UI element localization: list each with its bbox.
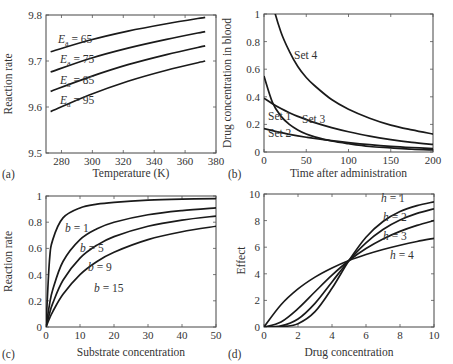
chart-panel-b: 05010015020000.20.40.60.81Time after adm… — [221, 0, 442, 181]
x-tick-label: 50 — [211, 329, 223, 341]
x-tick-label: 0 — [43, 329, 49, 341]
panel-letter: (c) — [2, 348, 15, 361]
series-label: b = 9 — [88, 261, 112, 273]
y-tick-label: 0.4 — [28, 269, 42, 281]
y-tick-label: 9.8 — [28, 9, 42, 21]
panel-letter: (a) — [2, 168, 15, 181]
x-tick-label: 320 — [115, 155, 132, 167]
y-tick-label: 0 — [255, 321, 261, 333]
y-tick-label: 0.6 — [28, 242, 42, 254]
series-label: Set 3 — [302, 113, 326, 125]
y-tick-label: 6 — [255, 241, 261, 253]
x-tick-label: 4 — [329, 329, 335, 341]
chart-panel-c: 0102030405000.20.40.60.81Substrate conce… — [2, 190, 222, 361]
y-axis-label: Reaction rate — [2, 54, 14, 115]
series-label: Set 4 — [294, 49, 318, 61]
y-tick-label: 0.2 — [28, 295, 42, 307]
x-tick-label: 340 — [146, 155, 163, 167]
y-tick-label: 0.8 — [28, 216, 42, 228]
x-tick-label: 0 — [261, 154, 267, 166]
y-tick-label: 2 — [255, 294, 261, 306]
x-tick-label: 10 — [75, 329, 87, 341]
y-tick-label: 1 — [255, 8, 261, 20]
y-axis-label: Reaction rate — [2, 231, 14, 292]
x-tick-label: 10 — [429, 329, 441, 341]
y-tick-label: 4 — [255, 268, 261, 280]
x-tick-label: 0 — [261, 329, 267, 341]
series-line — [264, 202, 434, 327]
panel-letter: (b) — [228, 168, 242, 181]
series-label: h = 1 — [381, 192, 405, 204]
x-tick-label: 30 — [143, 329, 155, 341]
series-label: Set 2 — [268, 127, 292, 139]
y-tick-label: 0 — [37, 321, 43, 333]
y-tick-label: 9.7 — [28, 55, 42, 67]
y-tick-label: 9.6 — [28, 101, 42, 113]
x-axis-label: Substrate concentration — [77, 346, 186, 358]
x-tick-label: 2 — [295, 329, 301, 341]
y-axis-label: Effect — [235, 246, 247, 275]
y-tick-label: 0.4 — [246, 91, 260, 103]
series-line — [264, 209, 434, 327]
x-tick-label: 6 — [363, 329, 369, 341]
y-axis-label: Drug concentration in blood — [221, 18, 234, 148]
series-label: h = 3 — [383, 230, 407, 242]
chart-panel-a: 2803003203403603809.59.69.79.8Temperatur… — [2, 9, 225, 181]
y-tick-label: 10 — [249, 188, 261, 200]
y-tick-label: 0 — [255, 146, 261, 158]
x-tick-label: 20 — [109, 329, 121, 341]
x-axis-label: Time after administration — [290, 167, 407, 179]
y-tick-label: 0.8 — [246, 36, 260, 48]
y-tick-label: 1 — [37, 190, 43, 202]
x-axis-label: Temperature (K) — [93, 167, 170, 180]
x-tick-label: 100 — [340, 154, 357, 166]
series-label: Ea = 95 — [59, 94, 95, 109]
series-label: h = 2 — [383, 211, 407, 223]
series-label: b = 1 — [65, 222, 89, 234]
series-label: Set 1 — [268, 110, 292, 122]
x-axis-label: Drug concentration — [304, 346, 393, 359]
axes-box — [46, 196, 216, 327]
y-tick-label: 9.5 — [28, 147, 42, 159]
y-tick-label: 8 — [255, 215, 261, 227]
y-tick-label: 0.6 — [246, 63, 260, 75]
series-label: h = 4 — [390, 249, 414, 261]
x-tick-label: 150 — [383, 154, 400, 166]
figure: 2803003203403603809.59.69.79.8Temperatur… — [0, 0, 453, 364]
series-line — [264, 221, 434, 327]
x-tick-label: 300 — [84, 155, 101, 167]
series-line — [46, 226, 216, 327]
series-label: b = 15 — [94, 282, 124, 294]
series-label: Ea = 65 — [57, 33, 93, 48]
panel-letter: (d) — [228, 348, 242, 361]
series-label: b = 5 — [80, 242, 104, 254]
x-tick-label: 380 — [208, 155, 225, 167]
series-label: Ea = 75 — [59, 53, 95, 68]
x-tick-label: 50 — [301, 154, 313, 166]
x-tick-label: 280 — [53, 155, 70, 167]
y-tick-label: 0.2 — [246, 118, 260, 130]
x-tick-label: 8 — [397, 329, 403, 341]
x-tick-label: 360 — [177, 155, 194, 167]
x-tick-label: 40 — [177, 329, 189, 341]
chart-panel-d: 02468100246810Drug concentrationEffect(d… — [228, 188, 440, 361]
x-tick-label: 200 — [425, 154, 442, 166]
